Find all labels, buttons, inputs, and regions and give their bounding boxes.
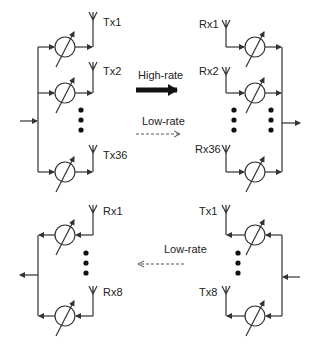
phase-shifter-icon: [245, 32, 265, 67]
antenna-icon: [222, 286, 230, 294]
antenna-label: Rx2: [199, 65, 219, 77]
phase-shifter-icon: [55, 220, 75, 255]
antenna-label: Tx36: [103, 149, 127, 161]
antenna-icon: [89, 62, 97, 70]
antenna-label: Tx8: [199, 286, 217, 298]
antenna-icon: [89, 286, 97, 294]
beamforming-diagram: Tx1 Tx2 Tx36 High-rate Low-rate Low-rate: [0, 0, 317, 353]
low-rate-label: Low-rate: [142, 115, 185, 127]
antenna-icon: [222, 20, 230, 28]
antenna-icon: [89, 145, 97, 153]
link-indicators: High-rate Low-rate Low-rate: [136, 69, 207, 264]
phase-shifter-icon: [245, 78, 265, 113]
ellipsis-dots: [235, 250, 240, 275]
ellipsis-dots: [78, 107, 83, 132]
phase-shifter-icon: [245, 220, 265, 255]
antenna-label: Rx8: [103, 286, 123, 298]
antenna-label: Tx1: [199, 205, 217, 217]
antenna-icon: [222, 67, 230, 75]
rx-array-8: Rx1 Rx8: [20, 205, 123, 336]
phase-shifter-icon: [55, 78, 75, 113]
antenna-icon: [222, 205, 230, 213]
phase-shifter-icon: [245, 157, 265, 192]
phase-shifter-icon: [55, 32, 75, 67]
antenna-label: Tx1: [103, 16, 121, 28]
antenna-label: Rx1: [103, 205, 123, 217]
phase-shifter-icon: [245, 301, 265, 336]
rx-array-36: Rx1 Rx2 Rx36: [195, 18, 300, 192]
antenna-icon: [89, 12, 97, 20]
antenna-icon: [222, 145, 230, 153]
low-rate-return-label: Low-rate: [164, 243, 207, 255]
ellipsis-dots: [231, 107, 273, 132]
antenna-label: Rx1: [199, 18, 219, 30]
high-rate-label: High-rate: [138, 69, 183, 81]
tx-array-36: Tx1 Tx2 Tx36: [20, 12, 127, 192]
phase-shifter-icon: [55, 157, 75, 192]
tx-array-8: Tx1 Tx8: [199, 205, 300, 336]
antenna-label: Tx2: [103, 65, 121, 77]
ellipsis-dots: [83, 250, 88, 275]
antenna-label: Rx36: [195, 143, 221, 155]
phase-shifter-icon: [55, 301, 75, 336]
antenna-icon: [89, 205, 97, 213]
